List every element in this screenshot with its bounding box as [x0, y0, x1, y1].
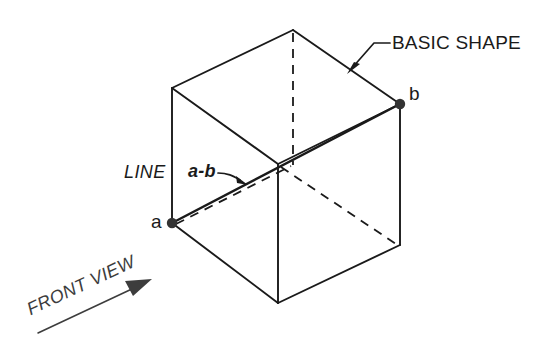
- label-point-a: a: [151, 212, 162, 231]
- leader-line-ab: [218, 173, 248, 185]
- edge-topleft-apex: [172, 30, 293, 88]
- dot-icon-point-a: [167, 218, 177, 228]
- edge-apex-topright: [293, 30, 400, 104]
- diagram-canvas: BASIC SHAPE b a LINE a-b FRONT VIEW: [0, 0, 541, 351]
- label-line-ab: a-b: [188, 162, 216, 180]
- leader-basic-shape: [347, 43, 390, 74]
- arrow-icon-front-view: [125, 279, 152, 296]
- edge-a-frontbottom: [172, 223, 278, 303]
- dot-icon-point-b: [395, 99, 405, 109]
- cube-hidden-edges: [281, 33, 399, 246]
- edge-frontbottom-bottomright: [278, 245, 400, 303]
- label-point-b: b: [409, 84, 420, 103]
- label-basic-shape: BASIC SHAPE: [392, 33, 521, 52]
- hidden-edge-backbottom-right: [281, 167, 399, 246]
- edge-topleft-fronttop: [172, 88, 278, 164]
- label-line: LINE: [124, 163, 166, 181]
